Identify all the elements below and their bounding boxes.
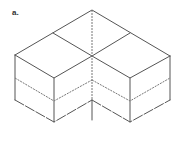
isometric-blocks-drawing [0, 0, 179, 144]
left-block-top-ridge [53, 33, 92, 56]
right-block-bottom-edge [92, 100, 170, 122]
right-block-top-ridge [92, 33, 130, 56]
right-block-front-top-edge [92, 56, 170, 78]
left-block-front-top-edge [15, 55, 92, 78]
right-block-mid-dashed-line [92, 78, 170, 101]
